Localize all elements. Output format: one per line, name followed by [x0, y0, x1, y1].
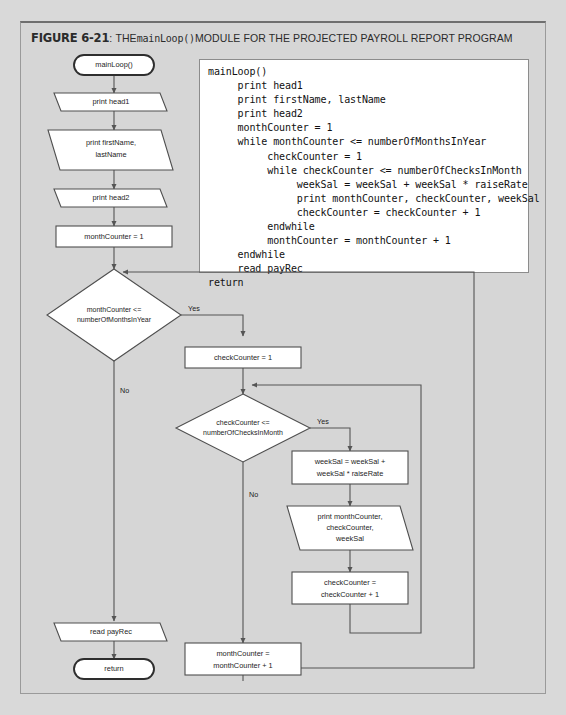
process-shape: [292, 572, 408, 604]
node-print-detail-line2: checkCounter,: [326, 523, 373, 532]
node-month-decision-line1: monthCounter <=: [87, 306, 141, 313]
node-month-incr-line1: monthCounter =: [216, 649, 269, 658]
node-print-detail-line3: weekSal: [335, 534, 364, 543]
edge-month-yes: [181, 315, 243, 336]
node-read-payrec: read payRec: [54, 623, 167, 641]
node-print-detail: print monthCounter, checkCounter, weekSa…: [287, 506, 413, 550]
node-print-names-line1: print firstName,: [86, 138, 136, 147]
node-month-incr-line2: monthCounter + 1: [213, 661, 272, 670]
node-start-label: mainLoop(): [95, 60, 132, 69]
edge-label-check-yes: Yes: [317, 417, 329, 426]
edge-label-month-no: No: [120, 386, 129, 395]
node-print-names-line2: lastName: [95, 150, 126, 159]
edge-label-month-yes: Yes: [188, 304, 200, 313]
node-end-label: return: [104, 664, 123, 673]
process-shape: [185, 643, 301, 675]
node-check-decision-line2: numberOfChecksInMonth: [203, 429, 283, 436]
node-print-head2-label: print head2: [93, 193, 130, 202]
edge-check-yes: [310, 428, 350, 451]
figure-panel: FIGURE 6-21: THEmainLoop()MODULE FOR THE…: [20, 21, 546, 694]
node-read-payrec-label: read payRec: [90, 627, 132, 636]
node-week-sal-line1: weekSal = weekSal +: [314, 457, 386, 466]
node-month-init-label: monthCounter = 1: [84, 232, 143, 241]
node-print-detail-line1: print monthCounter,: [318, 512, 383, 521]
node-check-decision-line1: checkCounter <=: [216, 419, 269, 426]
node-month-incr: monthCounter = monthCounter + 1: [185, 643, 301, 675]
flowchart-diagram: mainLoop() print head1 print firstName, …: [21, 23, 547, 696]
node-print-names: print firstName, lastName: [48, 130, 173, 170]
node-check-init-label: checkCounter = 1: [214, 353, 272, 362]
node-week-sal-line2: weekSal * raiseRate: [316, 469, 384, 478]
node-end: return: [74, 659, 154, 679]
node-check-incr-line2: checkCounter + 1: [321, 590, 379, 599]
node-check-decision: checkCounter <= numberOfChecksInMonth: [176, 394, 310, 462]
edge-label-check-no: No: [249, 490, 258, 499]
node-check-init: checkCounter = 1: [185, 347, 301, 368]
node-start: mainLoop(): [74, 55, 154, 75]
node-print-head1-label: print head1: [93, 97, 130, 106]
node-check-incr: checkCounter = checkCounter + 1: [292, 572, 408, 604]
node-week-sal: weekSal = weekSal + weekSal * raiseRate: [292, 451, 408, 484]
node-month-decision-line2: numberOfMonthsInYear: [77, 316, 152, 323]
node-month-decision: monthCounter <= numberOfMonthsInYear: [47, 269, 181, 361]
process-shape: [292, 451, 408, 484]
node-check-incr-line1: checkCounter =: [324, 578, 376, 587]
node-print-head2: print head2: [54, 189, 167, 207]
node-month-init: monthCounter = 1: [56, 226, 172, 247]
node-print-head1: print head1: [54, 93, 167, 111]
